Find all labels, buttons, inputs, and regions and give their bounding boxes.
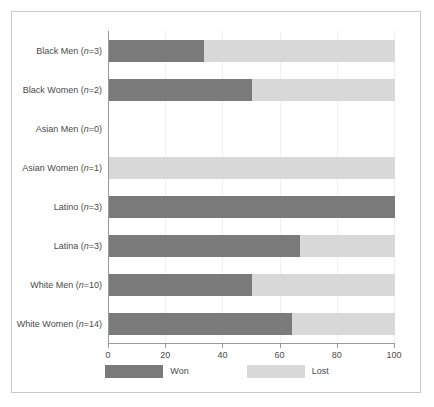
legend-label: Won bbox=[170, 366, 188, 376]
plot-area: Black Men (n=3)Black Women (n=2)Asian Me… bbox=[108, 31, 394, 343]
legend-swatch-lost bbox=[247, 365, 305, 378]
chart-legend: WonLost bbox=[12, 361, 422, 381]
x-tick-label: 0 bbox=[105, 350, 110, 360]
x-tick bbox=[165, 343, 166, 348]
bar-row[interactable]: Asian Women (n=1) bbox=[109, 157, 394, 179]
legend-item-lost[interactable]: Lost bbox=[247, 365, 329, 378]
legend-label: Lost bbox=[312, 366, 329, 376]
category-label: Latino (n=3) bbox=[54, 196, 102, 218]
legend-swatch-won bbox=[105, 365, 163, 378]
legend-item-won[interactable]: Won bbox=[105, 365, 188, 378]
bar-row[interactable]: Latina (n=3) bbox=[109, 235, 394, 257]
x-tick-label: 40 bbox=[217, 350, 227, 360]
x-tick bbox=[394, 343, 395, 348]
bar-segment-won[interactable] bbox=[109, 40, 204, 62]
bar-segment-won[interactable] bbox=[109, 79, 252, 101]
category-label: White Women (n=14) bbox=[17, 313, 102, 335]
x-tick-label: 60 bbox=[275, 350, 285, 360]
bar-segment-won[interactable] bbox=[109, 196, 395, 218]
category-label: Latina (n=3) bbox=[54, 235, 102, 257]
bar-row[interactable]: Latino (n=3) bbox=[109, 196, 394, 218]
category-label: Asian Men (n=0) bbox=[36, 118, 102, 140]
x-axis-line bbox=[108, 343, 394, 344]
bar-row[interactable]: Black Men (n=3) bbox=[109, 40, 394, 62]
chart-figure: Black Men (n=3)Black Women (n=2)Asian Me… bbox=[11, 11, 421, 393]
x-tick bbox=[222, 343, 223, 348]
x-tick bbox=[280, 343, 281, 348]
category-label: Black Men (n=3) bbox=[36, 40, 102, 62]
bar-segment-lost[interactable] bbox=[252, 79, 395, 101]
category-label: Black Women (n=2) bbox=[23, 79, 102, 101]
bar-segment-won[interactable] bbox=[109, 274, 252, 296]
bar-row[interactable]: Black Women (n=2) bbox=[109, 79, 394, 101]
bar-segment-lost[interactable] bbox=[204, 40, 395, 62]
x-tick-label: 80 bbox=[332, 350, 342, 360]
bar-row[interactable]: Asian Men (n=0) bbox=[109, 118, 394, 140]
x-tick bbox=[108, 343, 109, 348]
bar-segment-lost[interactable] bbox=[109, 157, 395, 179]
x-tick bbox=[337, 343, 338, 348]
x-tick-label: 20 bbox=[160, 350, 170, 360]
category-label: Asian Women (n=1) bbox=[22, 157, 102, 179]
x-tick-label: 100 bbox=[386, 350, 401, 360]
category-label: White Men (n=10) bbox=[30, 274, 102, 296]
bar-row[interactable]: White Men (n=10) bbox=[109, 274, 394, 296]
bar-segment-lost[interactable] bbox=[292, 313, 395, 335]
bar-segment-lost[interactable] bbox=[252, 274, 395, 296]
bar-segment-won[interactable] bbox=[109, 235, 300, 257]
bar-segment-lost[interactable] bbox=[300, 235, 395, 257]
bar-row[interactable]: White Women (n=14) bbox=[109, 313, 394, 335]
bar-segment-won[interactable] bbox=[109, 313, 292, 335]
